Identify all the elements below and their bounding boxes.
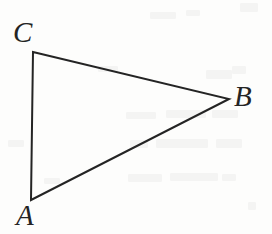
geometry-figure: C A B	[0, 0, 272, 234]
vertex-label-c: C	[13, 18, 32, 47]
triangle-drawing	[0, 0, 272, 234]
vertex-label-a: A	[16, 201, 34, 230]
triangle-abc-outline	[31, 52, 229, 200]
vertex-label-b: B	[234, 82, 252, 111]
